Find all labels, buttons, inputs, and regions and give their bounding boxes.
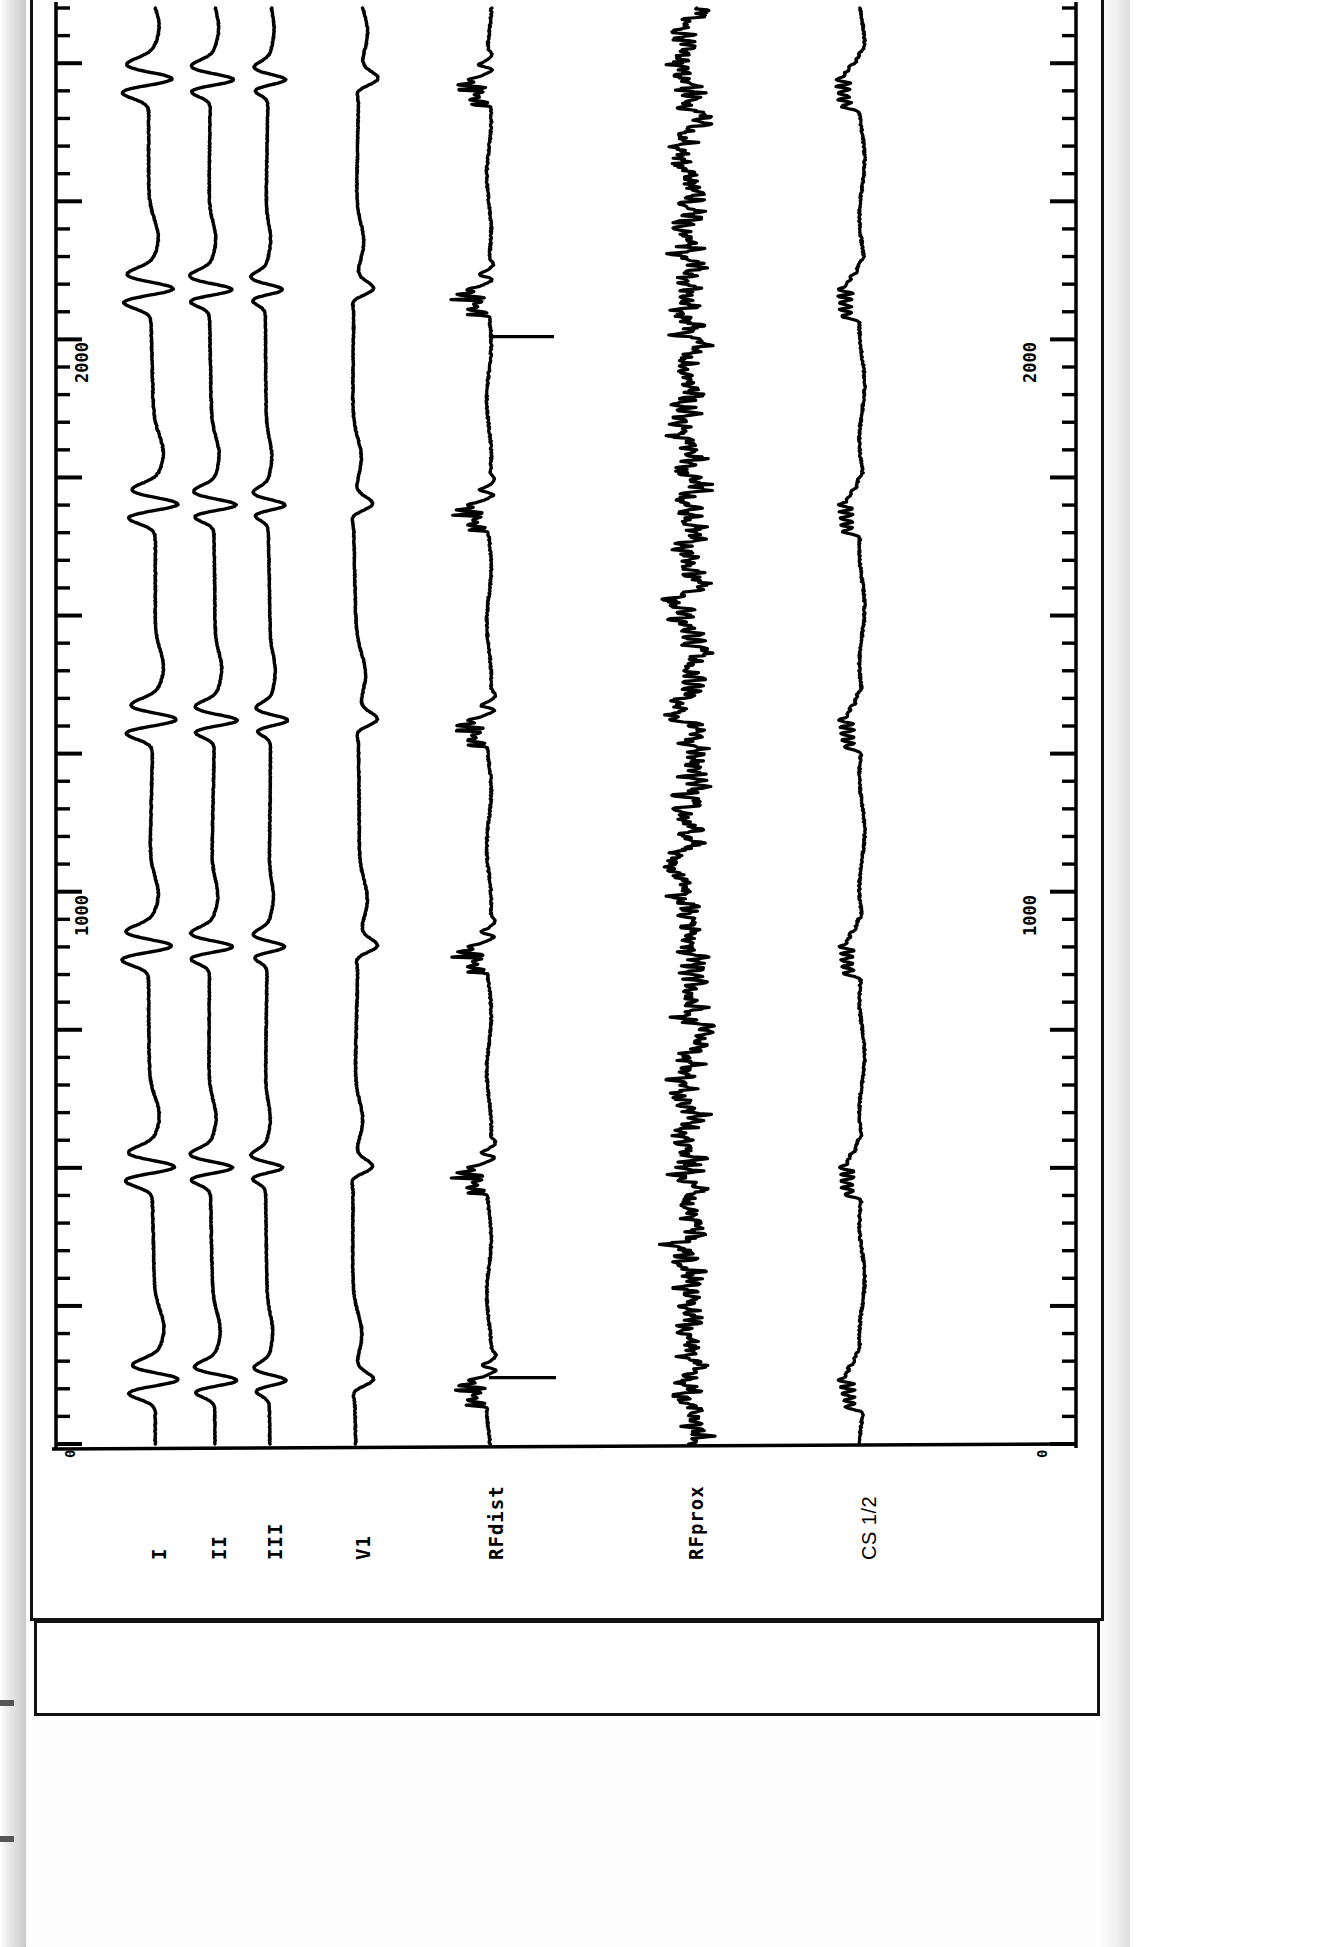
scan-artifact-top (0, 1700, 14, 1706)
label-baseline (52, 1444, 1074, 1449)
waveform-trace-ii (190, 8, 238, 1444)
channel-label-cs12: CS 1/2 (858, 1496, 881, 1560)
tick-label-left-1000: 1000 (72, 895, 92, 936)
channel-label-rfprox: RFprox (685, 1485, 707, 1560)
waveform-trace-iii (251, 8, 288, 1444)
tick-label-right-0: 0 (1034, 1450, 1050, 1458)
time-rulers (56, 2, 1076, 1448)
waveform-trace-cs12 (836, 8, 865, 1444)
waveform-trace-rfprox (659, 8, 715, 1444)
recording-plot: IIIIIIV1RFdistRFproxCS 1/2 0100020000100… (34, 0, 1100, 1620)
scan-artifact-bottom (0, 1836, 14, 1842)
waveform-canvas (34, 0, 1100, 1620)
waveform-trace-rfdist (451, 8, 496, 1444)
channel-label-rfdist: RFdist (485, 1485, 507, 1560)
tick-label-right-2000: 2000 (1020, 342, 1040, 383)
channel-label-v1: V1 (352, 1535, 374, 1560)
channel-label-iii: III (264, 1523, 286, 1560)
waveform-traces (122, 8, 866, 1444)
waveform-trace-i (122, 8, 178, 1444)
scanned-page: IIIIIIV1RFdistRFproxCS 1/2 0100020000100… (0, 0, 1344, 1947)
scan-right-margin (1130, 0, 1344, 1947)
tick-label-right-1000: 1000 (1020, 895, 1040, 936)
tick-label-left-2000: 2000 (72, 342, 92, 383)
waveform-trace-v1 (352, 8, 378, 1444)
tick-label-left-0: 0 (62, 1450, 78, 1458)
scan-left-shadow (0, 0, 26, 1947)
channel-label-i: I (148, 1548, 170, 1560)
channel-label-ii: II (208, 1535, 230, 1560)
footer-frame (34, 1620, 1100, 1716)
